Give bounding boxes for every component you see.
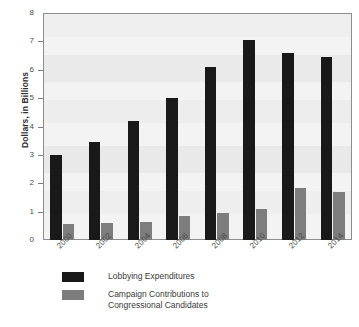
legend-label: Campaign Contributions to Congressional … [108, 289, 209, 311]
legend-item: Lobbying Expenditures [62, 271, 352, 282]
y-axis-tick-label: 5 [30, 92, 34, 103]
bars-layer [43, 13, 352, 240]
y-axis-tick-label: 3 [30, 149, 34, 160]
y-axis-tick-label: 2 [30, 177, 34, 188]
y-axis-tick-label: 8 [30, 7, 34, 18]
legend-swatch [62, 290, 84, 300]
y-axis-tick-label: 7 [30, 35, 34, 46]
y-axis-tick-label: 1 [30, 206, 34, 217]
bar-2000-series-1 [50, 155, 62, 240]
y-axis-tick-label: 6 [30, 64, 34, 75]
chart-legend: Lobbying ExpendituresCampaign Contributi… [62, 271, 352, 318]
bar-2010-series-1 [243, 40, 255, 240]
bar-chart-figure: Dollars, in Billions 012345678 200020022… [0, 0, 359, 327]
bar-2006-series-1 [166, 98, 178, 240]
y-axis-title: Dollars, in Billions [20, 40, 30, 180]
bar-2008-series-1 [205, 67, 217, 240]
bar-2014-series-1 [321, 57, 333, 240]
bar-2012-series-1 [282, 53, 294, 240]
legend-item: Campaign Contributions to Congressional … [62, 289, 352, 311]
y-axis-tick-label: 4 [30, 121, 34, 132]
legend-label: Lobbying Expenditures [108, 271, 194, 282]
legend-swatch [62, 272, 84, 282]
bar-2002-series-1 [89, 142, 101, 240]
bar-2004-series-1 [128, 121, 140, 240]
y-axis-tick-label: 0 [30, 234, 34, 245]
